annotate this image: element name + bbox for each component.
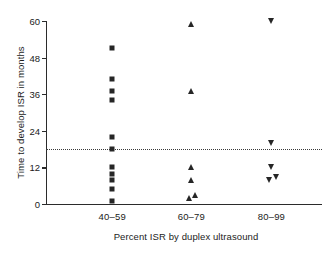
x-axis-title: Percent ISR by duplex ultrasound	[46, 231, 326, 242]
y-tick-label: 24	[29, 125, 40, 136]
x-tick-label: 80–99	[258, 211, 285, 222]
data-point	[266, 177, 272, 183]
data-point	[188, 177, 194, 183]
y-tick-label: 12	[29, 162, 40, 173]
data-point	[110, 89, 115, 94]
y-axis-title: Time to develop ISR in months	[14, 21, 28, 204]
data-point	[110, 186, 115, 191]
y-axis-line	[46, 21, 47, 204]
scatter-plot-figure: Time to develop ISR in months Percent IS…	[0, 0, 332, 253]
median-reference-line	[46, 149, 322, 150]
data-point	[110, 165, 115, 170]
data-point	[268, 18, 274, 24]
y-tick-mark	[42, 94, 46, 95]
y-tick-mark	[42, 204, 46, 205]
y-tick-label: 36	[29, 89, 40, 100]
x-tick-label: 60–79	[178, 211, 205, 222]
data-point	[188, 164, 194, 170]
data-point	[110, 147, 115, 152]
data-point	[110, 76, 115, 81]
y-tick-label: 48	[29, 52, 40, 63]
data-point	[110, 177, 115, 182]
data-point	[110, 171, 115, 176]
y-tick-mark	[42, 167, 46, 168]
data-point	[188, 88, 194, 94]
x-axis-line	[46, 204, 322, 205]
data-point	[268, 140, 274, 146]
plot-area: 01224364860 40–5960–7980–99	[46, 21, 322, 204]
data-point	[110, 46, 115, 51]
y-tick-mark	[42, 21, 46, 22]
y-tick-mark	[42, 58, 46, 59]
data-point	[110, 98, 115, 103]
data-point	[110, 134, 115, 139]
data-point	[268, 164, 274, 170]
y-tick-mark	[42, 131, 46, 132]
data-point	[110, 198, 115, 203]
y-tick-label: 60	[29, 16, 40, 27]
data-point	[273, 174, 279, 180]
y-tick-label: 0	[35, 199, 40, 210]
x-tick-label: 40–59	[99, 211, 126, 222]
data-point	[188, 21, 194, 27]
data-point	[192, 192, 198, 198]
